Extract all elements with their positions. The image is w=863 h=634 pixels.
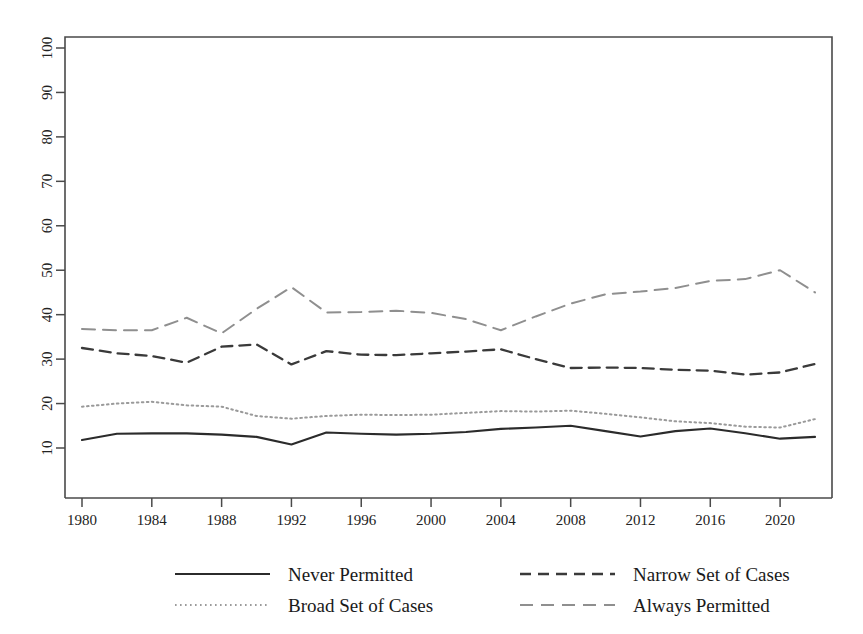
- x-tick-label: 1988: [207, 512, 237, 528]
- y-axis-ticks: 102030405060708090100: [39, 37, 65, 456]
- chart-figure: 102030405060708090100 198019841988199219…: [0, 0, 863, 634]
- x-tick-label: 2004: [486, 512, 517, 528]
- x-tick-label: 2008: [556, 512, 586, 528]
- x-tick-label: 1996: [346, 512, 377, 528]
- series-line-always-permitted: [82, 270, 815, 333]
- y-tick-label: 50: [39, 263, 55, 278]
- line-chart: 102030405060708090100 198019841988199219…: [0, 0, 863, 634]
- series-line-never-permitted: [82, 426, 815, 445]
- y-tick-label: 70: [39, 174, 55, 189]
- x-tick-label: 1992: [276, 512, 306, 528]
- y-tick-label: 100: [39, 37, 55, 60]
- legend-label: Always Permitted: [633, 595, 770, 616]
- y-tick-label: 10: [39, 441, 55, 456]
- y-tick-label: 60: [39, 218, 55, 233]
- chart-legend: Never PermittedNarrow Set of CasesBroad …: [175, 564, 790, 616]
- y-tick-label: 30: [39, 352, 55, 367]
- series-line-narrow-set-of-cases: [82, 344, 815, 374]
- data-series-group: [82, 270, 815, 444]
- x-tick-label: 2012: [625, 512, 655, 528]
- y-tick-label: 20: [39, 396, 55, 411]
- legend-label: Broad Set of Cases: [288, 595, 433, 616]
- legend-label: Never Permitted: [288, 564, 414, 585]
- y-tick-label: 90: [39, 85, 55, 100]
- y-tick-label: 40: [39, 307, 55, 322]
- legend-label: Narrow Set of Cases: [633, 564, 790, 585]
- y-tick-label: 80: [39, 129, 55, 144]
- x-tick-label: 2020: [765, 512, 795, 528]
- x-tick-label: 2016: [695, 512, 726, 528]
- series-line-broad-set-of-cases: [82, 402, 815, 428]
- x-tick-label: 1984: [137, 512, 168, 528]
- x-tick-label: 1980: [67, 512, 97, 528]
- x-axis-ticks: 1980198419881992199620002004200820122016…: [67, 498, 795, 528]
- x-tick-label: 2000: [416, 512, 446, 528]
